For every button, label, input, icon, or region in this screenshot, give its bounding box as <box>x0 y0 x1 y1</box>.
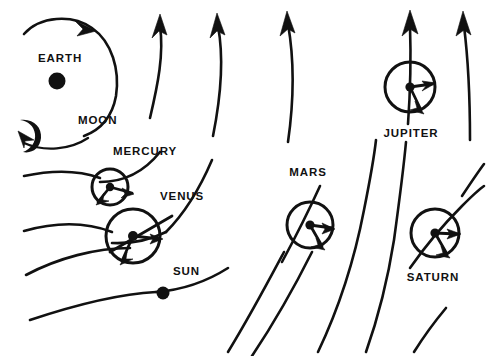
orbit-arc-3-arrowhead <box>280 11 295 36</box>
sun-dot <box>157 287 170 300</box>
jupiter-center-dot <box>405 82 414 91</box>
mars-group <box>287 202 335 250</box>
venus-group <box>106 209 172 265</box>
orbit-arc-1-arrowhead <box>152 14 167 38</box>
orbit-arc-4-jupiter-line <box>408 26 410 124</box>
saturn-center-dot <box>430 228 439 237</box>
label-moon: MOON <box>78 114 117 126</box>
orbit-arc-left-4 <box>30 292 156 320</box>
orbit-diagram: EARTH MOON MERCURY VENUS SUN MARS JUPITE… <box>0 0 486 356</box>
venus-center-dot <box>128 231 138 241</box>
orbit-arc-mid-2 <box>252 252 312 356</box>
diagram-canvas: EARTH MOON MERCURY VENUS SUN MARS JUPITE… <box>0 0 486 356</box>
mercury-center-dot <box>106 183 114 191</box>
orbit-arc-left-1 <box>24 172 100 178</box>
orbit-arc-left-2 <box>24 224 112 232</box>
orbit-arc-1 <box>150 26 161 118</box>
mars-center-dot <box>305 220 314 229</box>
orbit-arc-2-arrowhead <box>210 13 225 38</box>
mercury-group <box>92 169 134 205</box>
orbit-arc-right-lower <box>462 164 484 196</box>
label-venus: VENUS <box>160 190 204 202</box>
orbit-arc-mid-1 <box>228 252 284 352</box>
label-mars: MARS <box>289 166 326 178</box>
orbit-arc-bottom-right <box>414 308 446 352</box>
orbit-arc-5 <box>464 26 470 140</box>
label-jupiter: JUPITER <box>384 127 439 139</box>
orbit-arc-3 <box>288 24 293 142</box>
orbit-arc-left-3 <box>26 248 130 275</box>
label-saturn: SATURN <box>407 271 459 283</box>
label-earth: EARTH <box>38 52 82 64</box>
label-mercury: MERCURY <box>113 145 177 157</box>
earth-dot <box>49 73 66 90</box>
label-sun: SUN <box>173 265 200 277</box>
saturn-group <box>411 209 461 258</box>
sun-group <box>157 287 170 300</box>
orbit-arc-2 <box>213 26 221 136</box>
